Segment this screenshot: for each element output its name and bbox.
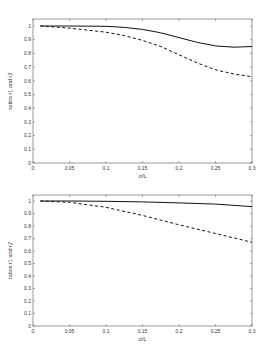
y-tick-label: 0.4 [24, 273, 31, 279]
y-tick-label: 0.2 [24, 132, 31, 138]
x-tick-label: 0.15 [138, 165, 148, 171]
x-tick-label: 0.05 [65, 165, 75, 171]
subplot-2: 00.10.20.30.40.50.60.70.80.9100.050.10.1… [7, 195, 256, 342]
x-tick-label: 0.25 [211, 328, 221, 334]
x-tick-label: 0.15 [138, 328, 148, 334]
x-tick-label: 0.05 [65, 328, 75, 334]
y-axis-label: ratios r1 and r2 [7, 242, 13, 279]
axes-frame [33, 19, 252, 163]
y-tick-label: 0.4 [24, 105, 31, 111]
y-tick-label: 0.8 [24, 50, 31, 56]
y-tick-label: 1 [28, 23, 31, 29]
x-tick-label: 0 [32, 165, 35, 171]
y-tick-label: 0.1 [24, 310, 31, 316]
y-tick-label: 0.6 [24, 248, 31, 254]
y-tick-label: 0.5 [24, 91, 31, 97]
y-tick-label: 0.8 [24, 223, 31, 229]
y-axis-label: ratios r1 and r2 [7, 73, 13, 110]
series-r2-line [40, 201, 252, 242]
x-tick-label: 0.1 [103, 328, 110, 334]
series-r2-line [40, 26, 252, 77]
x-axis-label: σ/L [139, 336, 147, 342]
x-tick-label: 0.25 [211, 165, 221, 171]
x-tick-label: 0.3 [249, 328, 256, 334]
y-tick-label: 0.6 [24, 78, 31, 84]
x-tick-label: 0.2 [176, 165, 183, 171]
y-tick-label: 0.3 [24, 119, 31, 125]
x-tick-label: 0.1 [103, 165, 110, 171]
x-tick-label: 0.2 [176, 328, 183, 334]
subplot-1: 00.10.20.30.40.50.60.70.80.9100.050.10.1… [7, 19, 256, 179]
x-tick-label: 0 [32, 328, 35, 334]
series-r1-line [40, 26, 252, 47]
y-tick-label: 0.1 [24, 146, 31, 152]
axes-frame [33, 195, 252, 326]
y-tick-label: 0.7 [24, 235, 31, 241]
y-tick-label: 0.9 [24, 210, 31, 216]
y-tick-label: 0.2 [24, 298, 31, 304]
y-tick-label: 1 [28, 198, 31, 204]
y-tick-label: 0.3 [24, 285, 31, 291]
y-tick-label: 0.9 [24, 36, 31, 42]
figure: 00.10.20.30.40.50.60.70.80.9100.050.10.1… [0, 0, 266, 357]
x-tick-label: 0.3 [249, 165, 256, 171]
series-r1-line [40, 201, 252, 207]
y-tick-label: 0.5 [24, 260, 31, 266]
x-axis-label: σ/L [139, 173, 147, 179]
y-tick-label: 0.7 [24, 64, 31, 70]
